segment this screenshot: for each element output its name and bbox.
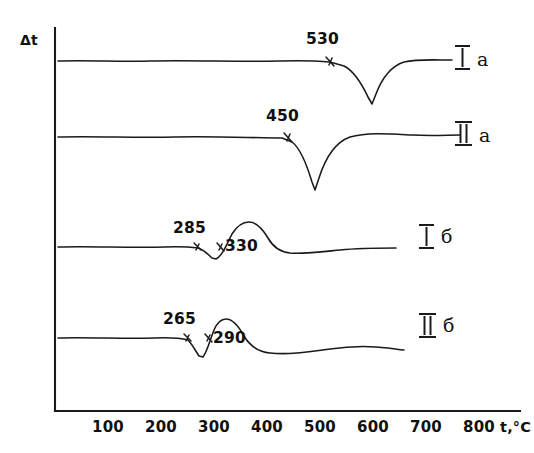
series-label-iib-suffix: б (443, 314, 454, 336)
x-tick-label-200: 200 (145, 418, 177, 436)
curve-group-iia (58, 133, 460, 190)
annotation-iib-265: 265 (163, 310, 196, 328)
curve-iia (58, 134, 460, 190)
annotation-ia-530: 530 (306, 30, 339, 48)
x-tick-label-400: 400 (251, 418, 283, 436)
series-label-iia-suffix: a (479, 124, 490, 146)
series-label-ia-numeral (455, 46, 470, 69)
x-tick-label-600: 600 (357, 418, 389, 436)
x-tick-label-100: 100 (92, 418, 124, 436)
curve-ia (58, 60, 452, 104)
onset-tick-ib (194, 243, 201, 250)
series-label-iib-numeral (419, 314, 436, 337)
series-label-ib-numeral (419, 225, 434, 248)
x-tick-label-300: 300 (198, 418, 230, 436)
x-tick-label-800: 800 (463, 418, 495, 436)
x-axis-title: t,°C (500, 419, 531, 435)
dta-chart-figure: Δt 530 450 285 330 265 290 a a б б 100 2… (0, 0, 534, 453)
annotation-ib-285: 285 (173, 219, 206, 237)
annotation-iia-450: 450 (266, 107, 299, 125)
peak-tick-ib (217, 243, 224, 251)
series-label-iia-numeral (455, 122, 472, 145)
series-label-ib-suffix: б (441, 225, 452, 247)
annotation-iib-290: 290 (213, 329, 246, 347)
x-tick-label-700: 700 (410, 418, 442, 436)
annotation-ib-330: 330 (225, 237, 258, 255)
y-axis-title: Δt (20, 32, 38, 48)
series-label-ia-suffix: a (477, 48, 488, 70)
curve-group-ia (58, 57, 452, 104)
x-tick-label-500: 500 (304, 418, 336, 436)
plot-canvas (0, 0, 534, 453)
